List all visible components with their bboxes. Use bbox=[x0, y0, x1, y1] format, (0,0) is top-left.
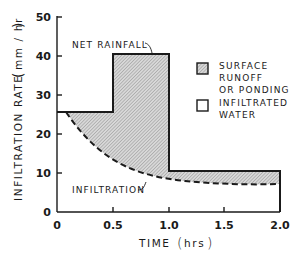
legend-swatch-infiltrated bbox=[197, 100, 208, 111]
y-tick-0: 0 bbox=[43, 206, 51, 219]
y-tick-labels: 50 40 30 20 10 0 bbox=[36, 11, 52, 219]
y-unit-open-paren: ( bbox=[10, 73, 26, 78]
x-axis-unit: hrs bbox=[184, 237, 205, 249]
legend-runoff-line1: SURFACE bbox=[219, 61, 268, 71]
x-tick-1.0: 1.0 bbox=[159, 219, 179, 232]
x-axis-label: TIME ( hrs ) bbox=[138, 235, 212, 251]
x-tick-1.5: 1.5 bbox=[214, 219, 234, 232]
infiltration-label: INFILTRATION bbox=[72, 185, 145, 195]
x-axis-title: TIME bbox=[138, 237, 171, 249]
y-unit-close-paren: ) bbox=[10, 23, 26, 28]
y-tick-40: 40 bbox=[36, 50, 52, 63]
x-unit-close-paren: ) bbox=[207, 235, 212, 251]
x-tick-2.0: 2.0 bbox=[270, 219, 290, 232]
y-axis-label: INFILTRATION RATE ( mm / hr ) bbox=[10, 17, 26, 201]
legend-swatch-runoff bbox=[197, 63, 208, 74]
net-rainfall-label: NET RAINFALL bbox=[72, 40, 148, 50]
legend-runoff-line3: OR PONDING bbox=[219, 85, 290, 95]
y-tick-20: 20 bbox=[36, 128, 52, 141]
x-tick-0.5: 0.5 bbox=[103, 219, 123, 232]
y-tick-30: 30 bbox=[36, 89, 52, 102]
legend: SURFACE RUNOFF OR PONDING INFILTRATED WA… bbox=[197, 61, 290, 120]
x-unit-open-paren: ( bbox=[177, 235, 182, 251]
y-axis-title: INFILTRATION RATE bbox=[12, 74, 24, 201]
legend-infiltrated-line2: WATER bbox=[219, 110, 256, 120]
y-tick-50: 50 bbox=[36, 11, 52, 24]
x-tick-0: 0 bbox=[53, 219, 61, 232]
legend-runoff-line2: RUNOFF bbox=[219, 73, 263, 83]
legend-infiltrated-line1: INFILTRATED bbox=[219, 98, 288, 108]
y-tick-10: 10 bbox=[36, 167, 52, 180]
infiltration-chart: 50 40 30 20 10 0 0 0.5 1.0 1.5 2.0 TIME … bbox=[0, 0, 299, 264]
x-tick-labels: 0 0.5 1.0 1.5 2.0 bbox=[53, 219, 290, 232]
